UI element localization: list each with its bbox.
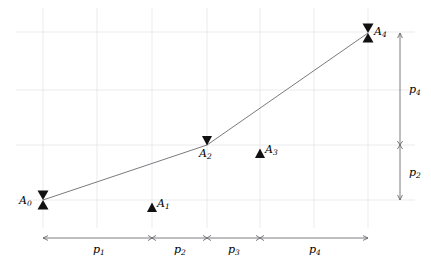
marker-a3-up-triangle [255,149,265,159]
x-measure-axis [43,235,368,240]
marker-layer [38,24,374,213]
y-measure-axis [397,33,402,200]
x-segment-label-p4: p4 [309,244,321,255]
marker-a4-up-triangle [363,33,374,43]
marker-a4-down-triangle [363,24,374,34]
x-segment-label-p2: p2 [174,244,186,255]
x-segment-label-p3: p3 [228,244,240,255]
point-label-a4: A4 [374,26,387,37]
y-segment-label-p2: p2 [409,167,421,178]
data-polyline [43,33,368,200]
grid-layer [16,8,415,228]
marker-a2-down-triangle [202,136,212,146]
point-label-a2: A2 [199,148,212,159]
point-label-a1: A1 [157,198,170,209]
diagram-canvas: A0 A1 A2 A3 A4 p1 p2 p3 p4 p4 p2 [0,0,431,264]
marker-a0-up-triangle [38,200,49,210]
data-polyline-layer [43,33,368,200]
x-segment-label-p1: p1 [93,244,105,255]
diagram-svg [0,0,431,264]
y-segment-label-p4: p4 [409,84,421,95]
point-label-a3: A3 [265,144,278,155]
point-label-a0: A0 [19,195,32,206]
marker-a1-up-triangle [147,203,157,213]
